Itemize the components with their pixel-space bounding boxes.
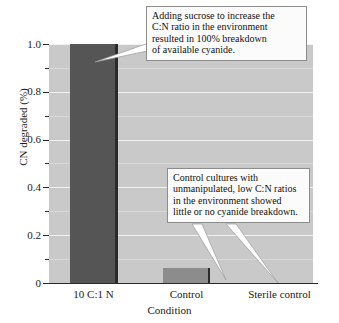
bar-10-c-1-n-shadow [115,44,118,283]
x-tick-label-10-c-1-n: 10 C:1 N [41,288,146,300]
annotation-control-line-2: unmanipulated, low C:N ratios [173,183,304,194]
y-tick-label-1.0: 1.0 [1,39,41,50]
annotation-control-line-4: little or no cyanide breakdown. [173,206,304,217]
annotation-sucrose-line-1: Adding sucrose to increase the [152,10,301,21]
annotation-sucrose: Adding sucrose to increase the C:N ratio… [146,6,307,61]
x-axis-title: Condition [0,304,339,316]
annotation-control-line-3: in the environment showed [173,195,304,206]
bar-chart-figure: 1.0 0.8 0.6 0.4 0.2 0 CN degraded (%) [0,0,339,323]
annotation-sucrose-line-3: resulted in 100% breakdown [152,33,301,44]
y-axis-title: CN degraded (%) [17,57,29,197]
y-tick-label-0.2: 0.2 [1,230,41,241]
leader-line-control [180,224,315,284]
annotation-control: Control cultures with unmanipulated, low… [167,168,310,223]
annotation-sucrose-line-4: of available cyanide. [152,44,301,55]
annotation-control-line-1: Control cultures with [173,172,304,183]
annotation-sucrose-line-2: C:N ratio in the environment [152,21,301,32]
y-tick-label-0: 0 [1,278,41,289]
bar-10-c-1-n-body [70,44,115,283]
bar-10-c-1-n [70,44,115,283]
x-tick-label-sterile-control: Sterile control [227,288,332,300]
x-tick-label-control: Control [134,288,239,300]
